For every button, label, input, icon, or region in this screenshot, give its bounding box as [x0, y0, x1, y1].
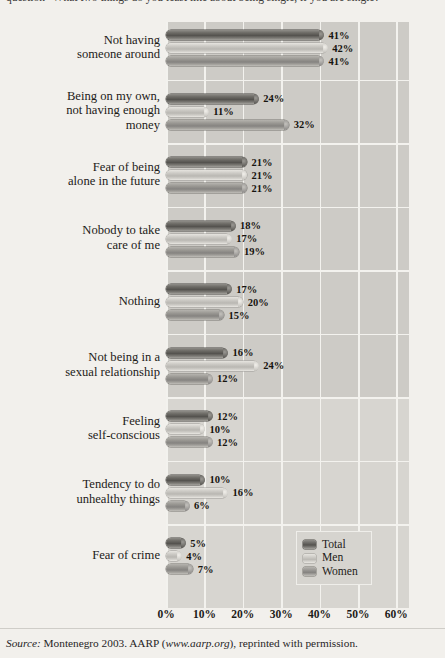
bar-total: [166, 157, 247, 167]
bar-cap: [208, 374, 213, 384]
bar-total: [166, 284, 231, 294]
source-url: www.aarp.org: [166, 637, 230, 649]
bar-men: [166, 424, 204, 434]
bar-cap: [319, 30, 324, 40]
bar-value-label: 16%: [232, 488, 253, 498]
bar-cap: [227, 284, 232, 294]
bar-women: [166, 564, 193, 574]
bar-cap: [185, 501, 190, 511]
category-label: Nobody to takecare of me: [8, 223, 160, 252]
bar-men: [166, 488, 227, 498]
category-label-line: Fear of being: [8, 160, 160, 175]
bar-men: [166, 551, 181, 561]
gridline-50: [358, 22, 360, 608]
bar-women: [166, 247, 239, 257]
bar-value-label: 4%: [186, 552, 202, 562]
bar-value-label: 24%: [263, 361, 284, 371]
source-note: Source: Montenegro 2003. AARP (www.aarp.…: [6, 636, 442, 650]
x-axis-tick: 50%: [346, 608, 369, 620]
bar-women: [166, 310, 224, 320]
bar-total: [166, 94, 258, 104]
bar-total: [166, 411, 212, 421]
bar-value-label: 24%: [263, 94, 284, 104]
bar-value-label: 41%: [328, 57, 349, 67]
bar-value-label: 41%: [328, 31, 349, 41]
category-label-line: Not being in a: [8, 350, 160, 365]
bar-cap: [254, 361, 259, 371]
bar-total: [166, 348, 227, 358]
group-separator: [166, 461, 409, 463]
bar-value-label: 17%: [236, 234, 257, 244]
gridline-40: [320, 22, 322, 608]
bar-women: [166, 183, 247, 193]
category-label: Fear of crime: [8, 548, 160, 563]
legend-item-women: Women: [303, 566, 365, 578]
x-axis-tick: 40%: [308, 608, 331, 620]
bar-cap: [242, 170, 247, 180]
bar-women: [166, 437, 212, 447]
bar-total: [166, 30, 323, 40]
category-label-line: Nothing: [8, 294, 160, 309]
source-text: Montenegro 2003. AARP (: [41, 637, 166, 649]
group-separator: [166, 80, 409, 82]
bar-value-label: 21%: [252, 158, 273, 168]
bar-cap: [319, 56, 324, 66]
bar-men: [166, 234, 231, 244]
category-label: Fear of beingalone in the future: [8, 160, 160, 189]
bar-men: [166, 297, 243, 307]
category-label: Tendency to dounhealthy things: [8, 477, 160, 506]
x-axis-tick: 20%: [231, 608, 254, 620]
bar-value-label: 10%: [209, 425, 230, 435]
bar-value-label: 12%: [217, 438, 238, 448]
bar-value-label: 21%: [252, 184, 273, 194]
bar-cap: [219, 310, 224, 320]
legend-swatch-women-icon: [303, 567, 316, 576]
gridline-60: [396, 22, 398, 608]
legend-label-women: Women: [322, 566, 358, 578]
bar-cap: [323, 43, 328, 53]
footer-divider: [0, 628, 445, 629]
bar-value-label: 12%: [217, 412, 238, 422]
bar-value-label: 21%: [252, 171, 273, 181]
bar-value-label: 18%: [240, 221, 261, 231]
x-axis: 0%10%20%30%40%50%60%: [0, 608, 445, 626]
bar-cap: [204, 107, 209, 117]
bar-value-label: 42%: [332, 44, 353, 54]
category-label-line: Feeling: [8, 414, 160, 429]
bar-cap: [254, 94, 259, 104]
bar-value-label: 17%: [236, 285, 257, 295]
bar-women: [166, 374, 212, 384]
bar-value-label: 7%: [198, 565, 214, 575]
category-label-line: unhealthy things: [8, 492, 160, 507]
legend-swatch-men-icon: [303, 554, 316, 563]
bar-cap: [242, 183, 247, 193]
gridline-30: [281, 22, 283, 608]
bar-men: [166, 361, 258, 371]
category-label-line: someone around: [8, 47, 160, 62]
category-label: Nothing: [8, 294, 160, 309]
group-separator: [166, 270, 409, 272]
chart-question-caption: question "What two things do you least l…: [6, 0, 442, 4]
chart-page: question "What two things do you least l…: [0, 0, 445, 658]
category-label-line: Tendency to do: [8, 477, 160, 492]
category-label-line: alone in the future: [8, 174, 160, 189]
source-suffix: ), reprinted with permission.: [230, 637, 358, 649]
bar-women: [166, 501, 189, 511]
legend-item-men: Men: [303, 552, 365, 564]
bar-men: [166, 43, 327, 53]
bar-cap: [227, 234, 232, 244]
category-label-line: self-conscious: [8, 428, 160, 443]
category-label-line: sexual relationship: [8, 365, 160, 380]
bar-value-label: 20%: [248, 298, 269, 308]
category-label: Not havingsomeone around: [8, 33, 160, 62]
x-axis-tick: 10%: [193, 608, 216, 620]
bar-value-label: 16%: [232, 348, 253, 358]
bar-value-label: 5%: [190, 539, 206, 549]
legend-item-total: Total: [303, 539, 365, 551]
category-label: Being on my own,not having enoughmoney: [8, 89, 160, 133]
bar-women: [166, 120, 289, 130]
x-axis-tick: 60%: [385, 608, 408, 620]
bar-men: [166, 170, 247, 180]
category-label: Feelingself-conscious: [8, 414, 160, 443]
bar-cap: [223, 348, 228, 358]
